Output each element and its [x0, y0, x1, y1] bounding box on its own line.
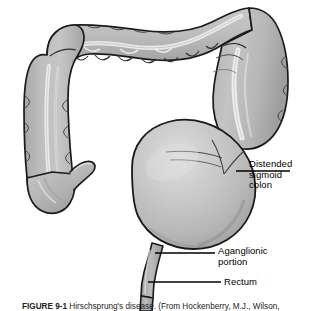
annotation-distended-sigmoid-line3: colon	[249, 180, 292, 191]
annotation-rectum-line1: Rectum	[224, 277, 257, 288]
annotation-rectum: Rectum	[224, 277, 257, 288]
annotation-aganglionic-line1: Aganglionic	[218, 246, 268, 257]
annotation-aganglionic-portion: Aganglionic portion	[218, 246, 268, 267]
figure-container: Distended sigmoid colon Aganglionic port…	[0, 0, 317, 311]
figure-caption-text: Hirschsprung's disease. (From Hockenberr…	[69, 302, 279, 311]
aganglionic-portion	[141, 243, 163, 298]
figure-caption-number: FIGURE 9-1	[22, 302, 67, 311]
annotation-distended-sigmoid-colon: Distended sigmoid colon	[249, 159, 292, 191]
annotation-aganglionic-line2: portion	[218, 257, 268, 268]
annotation-distended-sigmoid-line1: Distended	[249, 159, 292, 170]
cecum	[27, 172, 75, 213]
colon-anatomy-illustration	[0, 0, 317, 311]
appendix	[70, 161, 95, 190]
figure-caption: FIGURE 9-1 Hirschsprung's disease. (From…	[22, 302, 312, 311]
